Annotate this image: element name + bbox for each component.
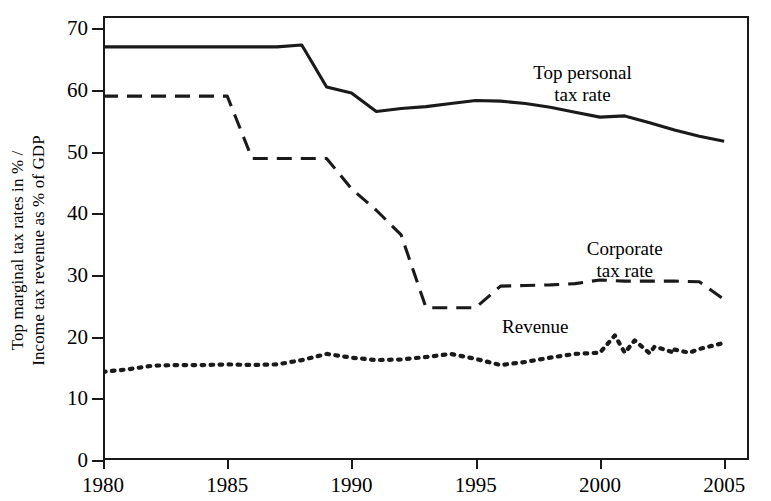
y-tick-label-30: 30 [67, 263, 88, 288]
annotation-personal-line-1: Top personal [533, 62, 631, 84]
y-tick-label-10: 10 [67, 386, 88, 411]
plot-area: 010203040506070 198019851990199520002005… [103, 16, 749, 460]
y-tick-label-50: 50 [67, 139, 88, 164]
y-tick-50 [92, 152, 103, 154]
y-axis-title-line-1: Top marginal tax rates in % / [7, 135, 28, 366]
x-tick-label-1990: 1990 [330, 473, 372, 498]
annotation-corporate-line-2: tax rate [587, 260, 663, 282]
annotation-revenue: Revenue [502, 316, 568, 338]
y-tick-label-20: 20 [67, 324, 88, 349]
annotation-corporate-line-1: Corporate [587, 238, 663, 260]
y-tick-30 [92, 275, 103, 277]
x-tick-label-1985: 1985 [206, 473, 248, 498]
y-tick-label-40: 40 [67, 201, 88, 226]
y-tick-60 [92, 90, 103, 92]
y-tick-40 [92, 213, 103, 215]
x-tick-label-2000: 2000 [579, 473, 621, 498]
y-tick-label-0: 0 [78, 448, 89, 473]
y-axis-title-line-2: Income tax revenue as % of GDP [28, 135, 49, 366]
x-tick-1985 [227, 460, 229, 469]
y-tick-20 [92, 337, 103, 339]
y-axis-title: Top marginal tax rates in % / Income tax… [0, 0, 56, 501]
y-tick-70 [92, 28, 103, 30]
x-tick-1980 [103, 460, 105, 469]
series-line-revenue [103, 335, 724, 371]
x-tick-1990 [351, 460, 353, 469]
x-tick-1995 [476, 460, 478, 469]
x-tick-2005 [724, 460, 726, 469]
y-tick-label-70: 70 [67, 16, 88, 41]
annotation-personal-line-2: tax rate [533, 84, 631, 106]
annotation-revenue-line-1: Revenue [502, 316, 568, 338]
annotation-top-personal-tax-rate: Top personal tax rate [533, 62, 631, 106]
x-tick-label-2005: 2005 [703, 473, 745, 498]
x-tick-label-1995: 1995 [455, 473, 497, 498]
y-tick-label-60: 60 [67, 78, 88, 103]
y-tick-0 [92, 460, 103, 462]
annotation-corporate-tax-rate: Corporate tax rate [587, 238, 663, 282]
y-tick-10 [92, 398, 103, 400]
x-tick-2000 [600, 460, 602, 469]
chart-figure: Top marginal tax rates in % / Income tax… [0, 0, 771, 501]
x-tick-label-1980: 1980 [82, 473, 124, 498]
